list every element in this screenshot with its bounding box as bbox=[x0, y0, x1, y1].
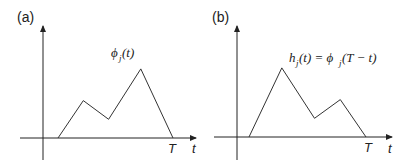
panel-a-function-label: ϕ j (t) bbox=[111, 45, 134, 63]
panel-a-t-axis-label: t bbox=[192, 141, 197, 156]
diagram-canvas: (a) ϕ j (t) T t (b) h j (t) = ϕ j (T − t… bbox=[0, 0, 408, 167]
panel-a-T-tick-label: T bbox=[168, 141, 177, 156]
panel-a-waveform bbox=[58, 69, 173, 138]
panel-b-function-label: h j (t) = ϕ j (T − t) bbox=[289, 50, 377, 68]
argument-t: (t) bbox=[122, 45, 134, 60]
h-symbol: h bbox=[289, 50, 296, 65]
phi-argument: (T − t) bbox=[342, 50, 377, 65]
phi-symbol: ϕ bbox=[111, 45, 118, 60]
h-argument: (t) = ϕ bbox=[299, 50, 334, 65]
panel-a-label: (a) bbox=[17, 9, 34, 25]
panel-b-t-axis-label: t bbox=[388, 141, 393, 156]
panel-b-T-tick-label: T bbox=[364, 140, 373, 155]
panel-b-label: (b) bbox=[212, 9, 229, 25]
panel-b: (b) h j (t) = ϕ j (T − t) T t bbox=[212, 9, 393, 160]
panel-a: (a) ϕ j (t) T t bbox=[17, 9, 197, 160]
panel-b-waveform bbox=[249, 68, 366, 137]
